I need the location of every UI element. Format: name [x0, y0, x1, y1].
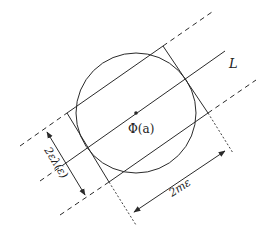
lower-boundary-line: [60, 80, 256, 215]
line-L: [40, 51, 225, 181]
line-L-label: L: [228, 56, 238, 71]
center-label: Φ(a): [128, 122, 154, 136]
diagram-canvas: L Φ(a) 2ελ(ε) 2mε: [0, 0, 269, 236]
center-point: [134, 111, 138, 115]
length-measure-label: 2mε: [166, 176, 194, 200]
upper-boundary-line: [20, 12, 212, 146]
